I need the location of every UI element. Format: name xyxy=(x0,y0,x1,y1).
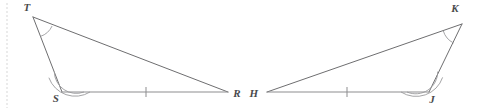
vertex-label-K: K xyxy=(450,2,459,14)
vertex-label-H: H xyxy=(249,87,259,99)
vertex-label-J: J xyxy=(428,93,435,105)
vertex-label-R: R xyxy=(232,87,241,99)
vertex-label-S: S xyxy=(53,92,59,104)
triangle-TSR: T S R xyxy=(24,1,241,104)
geometry-figure: T S R K J H xyxy=(0,0,489,111)
figure-canvas: T S R K J H xyxy=(0,0,489,111)
vertex-label-T: T xyxy=(24,1,32,13)
angle-arc-K-1 xyxy=(443,31,453,43)
side-TR xyxy=(33,17,228,92)
triangle-KJH: K J H xyxy=(249,2,462,105)
angle-arc-T-1 xyxy=(41,26,53,36)
side-KH xyxy=(267,24,462,92)
side-TS xyxy=(33,17,62,92)
